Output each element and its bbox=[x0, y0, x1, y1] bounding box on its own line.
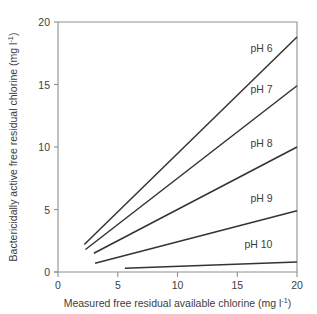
y-tick-label-5: 5 bbox=[44, 204, 50, 216]
chart-figure: 0 5 10 15 20 0 5 10 15 20 pH 6 pH 7 pH 8 bbox=[0, 0, 317, 314]
x-tick-label-0: 0 bbox=[55, 279, 61, 291]
y-tick-label-15: 15 bbox=[38, 79, 50, 91]
series-label-ph-7: pH 7 bbox=[250, 83, 272, 95]
y-axis-title-main: Bactericidally active free residual chlo… bbox=[7, 43, 19, 262]
series-line-ph-10 bbox=[125, 262, 297, 268]
y-tick-label-0: 0 bbox=[44, 266, 50, 278]
y-axis-ticks bbox=[54, 22, 58, 272]
x-axis-tick-labels: 0 5 10 15 20 bbox=[55, 279, 303, 291]
y-axis-title: Bactericidally active free residual chlo… bbox=[6, 33, 19, 262]
chart-canvas: 0 5 10 15 20 0 5 10 15 20 pH 6 pH 7 pH 8 bbox=[0, 0, 317, 314]
x-tick-label-20: 20 bbox=[291, 279, 303, 291]
series-label-ph-10: pH 10 bbox=[244, 238, 272, 250]
y-tick-label-10: 10 bbox=[38, 141, 50, 153]
data-series-group bbox=[84, 37, 297, 268]
series-label-ph-8: pH 8 bbox=[250, 137, 272, 149]
x-axis-title-tail: ) bbox=[288, 297, 292, 309]
x-axis-title-main: Measured free residual available chlorin… bbox=[64, 297, 282, 309]
x-tick-label-10: 10 bbox=[172, 279, 184, 291]
series-label-ph-6: pH 6 bbox=[250, 42, 272, 54]
series-label-ph-9: pH 9 bbox=[250, 192, 272, 204]
x-tick-label-15: 15 bbox=[231, 279, 243, 291]
series-labels-group: pH 6 pH 7 pH 8 pH 9 pH 10 bbox=[244, 42, 272, 250]
y-axis-tick-labels: 0 5 10 15 20 bbox=[38, 16, 50, 278]
x-tick-label-5: 5 bbox=[115, 279, 121, 291]
x-axis-title: Measured free residual available chlorin… bbox=[64, 296, 292, 309]
series-line-ph-7 bbox=[85, 86, 297, 250]
y-axis-title-tail: ) bbox=[7, 33, 19, 37]
y-tick-label-20: 20 bbox=[38, 16, 50, 28]
x-axis-ticks bbox=[58, 272, 297, 277]
